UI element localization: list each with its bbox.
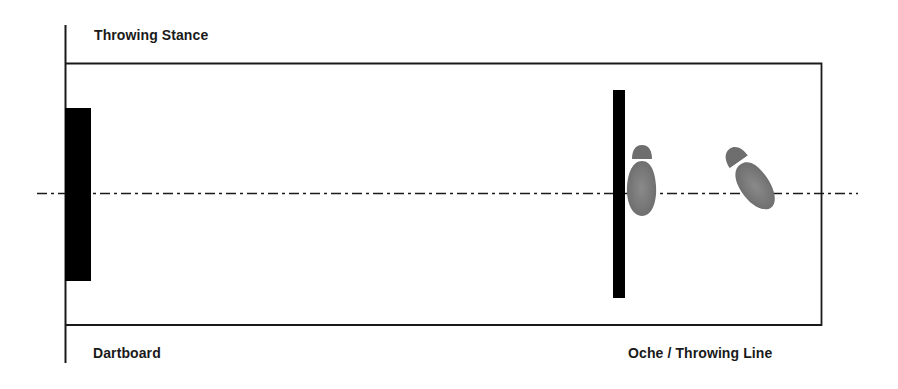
diagram-title: Throwing Stance [94,27,208,43]
oche-line [613,90,625,298]
throwing-stance-diagram [0,0,898,389]
dartboard-label: Dartboard [93,345,161,361]
oche-label: Oche / Throwing Line [628,345,772,361]
back-foot-icon [717,141,782,217]
front-foot-icon [627,145,656,216]
dartboard [65,108,91,281]
